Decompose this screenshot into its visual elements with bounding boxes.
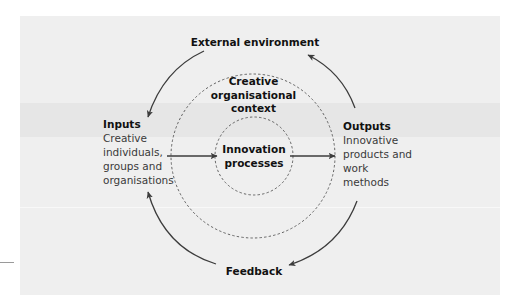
inputs-node: Inputs Creative individuals, groups and … xyxy=(103,117,174,187)
arrow-environment-to-inputs xyxy=(148,51,204,117)
external-environment-label: External environment xyxy=(180,35,330,49)
feedback-label: Feedback xyxy=(209,264,299,278)
core-label: Innovation processes xyxy=(213,142,295,170)
inputs-description: Creative individuals, groups and organis… xyxy=(103,131,174,187)
arrow-feedback-to-inputs xyxy=(148,192,216,264)
outputs-description: Innovative products and work methods xyxy=(343,133,412,189)
outputs-node: Outputs Innovative products and work met… xyxy=(343,119,412,189)
outputs-heading: Outputs xyxy=(343,119,412,133)
inputs-heading: Inputs xyxy=(103,117,174,131)
arrow-outputs-to-environment xyxy=(308,55,355,108)
arrow-outputs-to-feedback xyxy=(289,201,357,265)
context-label: Creative organisational context xyxy=(200,75,307,116)
